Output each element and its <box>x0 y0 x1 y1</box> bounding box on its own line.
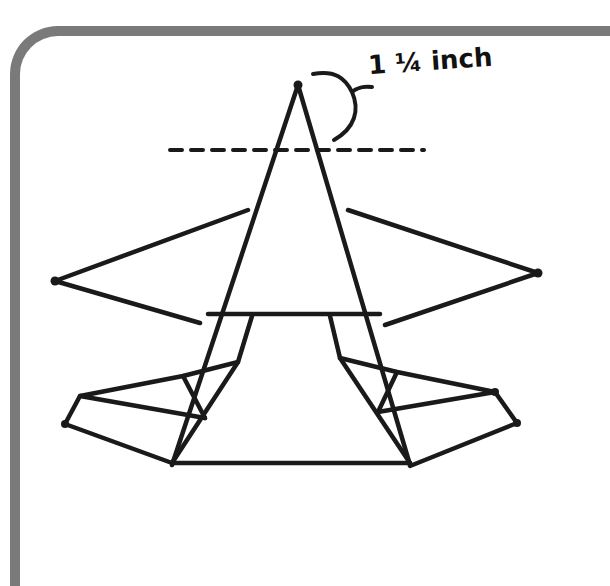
left-lower-panel <box>65 362 238 463</box>
right-lower-crease <box>378 392 495 412</box>
right-lower-panel <box>340 358 517 466</box>
right-inner-leg <box>330 316 410 463</box>
center-triangle-left-edge <box>172 85 298 465</box>
left-panel-dot <box>61 420 69 428</box>
left-lower-crease <box>80 396 205 418</box>
right-wing-tip-dot <box>534 269 543 278</box>
right-panel-dot <box>491 388 499 396</box>
left-wing-tip-dot <box>51 277 60 286</box>
apex-dot <box>294 81 303 90</box>
measure-brace <box>313 73 372 140</box>
right-panel-corner-dot <box>513 419 521 427</box>
right-wing <box>348 210 538 325</box>
left-wing <box>55 210 248 323</box>
